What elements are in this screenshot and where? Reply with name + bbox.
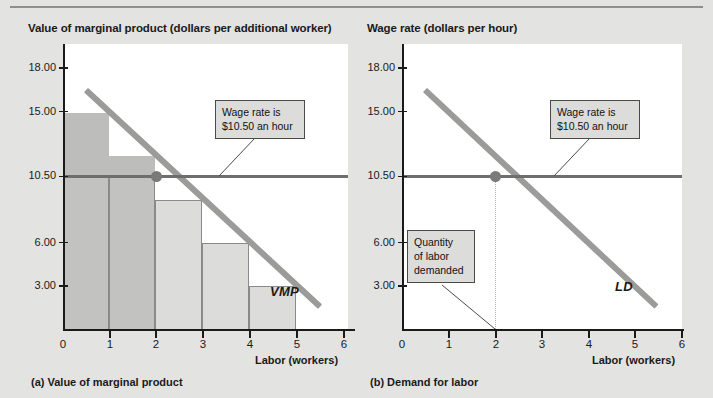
economic-rent-shading-2	[109, 156, 155, 176]
ytick-label-b-1050: 10.50	[352, 169, 395, 181]
panel-a-x-axis-title: Labor (workers)	[255, 354, 338, 366]
ytick-label-15: 15.00	[12, 105, 56, 117]
callout-line-2: $10.50 an hour	[222, 119, 298, 133]
xtick-label-b-3: 3	[532, 338, 552, 350]
xtick-mark-a-5	[296, 330, 298, 338]
panel-value-of-marginal-product: Value of marginal product (dollars per a…	[12, 18, 352, 380]
xtick-mark-b-4	[588, 330, 590, 338]
xtick-label-a-3: 3	[193, 338, 213, 350]
xtick-mark-a-1	[109, 330, 111, 338]
xtick-mark-b-5	[634, 330, 636, 338]
xtick-mark-a-4	[249, 330, 251, 338]
wage-rate-callout-a: Wage rate is $10.50 an hour	[215, 100, 305, 139]
ytick-label-b-3: 3.00	[352, 279, 395, 291]
ytick-mark-15	[59, 111, 68, 113]
wage-rate-line-a	[63, 175, 348, 178]
top-divider-rule	[10, 6, 703, 8]
xtick-label-b-1: 1	[439, 338, 459, 350]
xtick-mark-b-3	[541, 330, 543, 338]
wage-rate-callout-b: Wage rate is $10.50 an hour	[550, 100, 640, 139]
qty-callout-line-3: demanded	[414, 263, 468, 277]
xtick-label-a-1: 1	[100, 338, 120, 350]
callout-line-1: Wage rate is	[222, 105, 298, 119]
xtick-label-a-2: 2	[146, 338, 166, 350]
ytick-mark-b-6	[398, 242, 407, 244]
ytick-mark-18	[59, 67, 68, 69]
ld-curve-label: LD	[615, 279, 633, 294]
callout-leader-line-b	[542, 138, 602, 180]
equilibrium-point-b	[490, 171, 501, 182]
economic-rent-shading	[63, 113, 109, 177]
ytick-label-3: 3.00	[12, 279, 56, 291]
xtick-label-b-2: 2	[486, 338, 506, 350]
panel-a-x-axis	[63, 329, 355, 331]
ytick-label-b-15: 15.00	[352, 105, 395, 117]
ytick-label-b-18: 18.00	[352, 61, 395, 73]
qty-callout-line-1: Quantity	[414, 235, 468, 249]
vmp-curve-label: VMP	[270, 284, 299, 299]
panel-b-x-axis	[402, 329, 684, 331]
panel-b-y-axis	[402, 44, 404, 330]
xtick-label-b-6: 6	[672, 338, 692, 350]
ytick-mark-6	[59, 242, 68, 244]
panel-demand-for-labor: Wage rate (dollars per hour) Wage rate i…	[352, 18, 701, 380]
ytick-label-b-6: 6.00	[352, 236, 395, 248]
bar-worker-2	[109, 156, 155, 330]
qty-callout-leader-line	[442, 285, 502, 331]
panel-b-y-axis-title: Wage rate (dollars per hour)	[367, 22, 517, 34]
ytick-label-1050: 10.50	[12, 169, 56, 181]
ytick-label-18: 18.00	[12, 61, 56, 73]
xtick-mark-b-1	[448, 330, 450, 338]
xtick-mark-a-3	[202, 330, 204, 338]
callout-leader-line-a	[207, 138, 267, 180]
xtick-label-a-6: 6	[334, 338, 354, 350]
xtick-mark-a-2	[155, 330, 157, 338]
xtick-label-a-4: 4	[240, 338, 260, 350]
ytick-mark-b-3	[398, 285, 407, 287]
qty-callout-line-2: of labor	[414, 249, 468, 263]
xtick-label-b-5: 5	[625, 338, 645, 350]
xtick-label-b-4: 4	[579, 338, 599, 350]
xtick-label-a-0: 0	[53, 338, 73, 350]
panel-a-caption: (a) Value of marginal product	[31, 376, 183, 388]
xtick-mark-b-2	[495, 330, 497, 338]
ytick-mark-1050	[59, 176, 68, 178]
xtick-mark-a-6	[343, 330, 345, 338]
quantity-demanded-callout: Quantity of labor demanded	[407, 230, 475, 283]
xtick-label-a-5: 5	[287, 338, 307, 350]
ytick-mark-b-1050	[398, 176, 407, 178]
xtick-label-b-0: 0	[392, 338, 412, 350]
ytick-mark-3	[59, 285, 68, 287]
callout-b-line-2: $10.50 an hour	[557, 119, 633, 133]
bar-worker-4	[202, 243, 249, 330]
bar-worker-3	[155, 200, 202, 330]
xtick-mark-b-6	[681, 330, 683, 338]
panel-b-caption: (b) Demand for labor	[370, 376, 478, 388]
panel-a-y-axis	[63, 44, 65, 330]
panel-b-x-axis-title: Labor (workers)	[592, 354, 675, 366]
panel-a-y-axis-title: Value of marginal product (dollars per a…	[28, 22, 332, 34]
ytick-label-6: 6.00	[12, 236, 56, 248]
callout-b-line-1: Wage rate is	[557, 105, 633, 119]
ytick-mark-b-18	[398, 67, 407, 69]
ytick-mark-b-15	[398, 111, 407, 113]
